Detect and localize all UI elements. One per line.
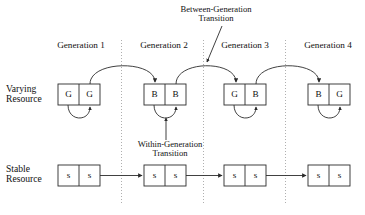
within-generation-arc-2 <box>154 105 176 118</box>
varying-box-1-right-letter: G <box>86 89 93 99</box>
between-generation-transition-line2: Transition <box>180 14 251 23</box>
generation-label-3: Generation 3 <box>221 41 269 51</box>
stable-box-4-right-letter: s <box>338 170 342 180</box>
stable-box-1-right-letter: s <box>88 170 92 180</box>
varying-box-1-left-letter: G <box>65 89 72 99</box>
stable-resource-label: Stable Resource <box>6 164 42 185</box>
varying-box-3-left-letter: G <box>231 89 238 99</box>
between-generation-leader <box>207 26 222 62</box>
varying-resource-boxes <box>58 84 350 105</box>
within-generation-arc-1 <box>68 105 90 118</box>
varying-box-2-left-letter: B <box>151 89 157 99</box>
varying-box-2-right-letter: B <box>172 89 178 99</box>
stable-box-3-right-letter: s <box>254 170 258 180</box>
generation-label-1: Generation 1 <box>57 41 105 51</box>
stable-box-2-left-letter: s <box>153 170 157 180</box>
stable-box-3-left-letter: s <box>233 170 237 180</box>
between-generation-arc-2 <box>176 66 236 84</box>
varying-box-4-right-letter: G <box>336 89 343 99</box>
between-generation-arc-3 <box>256 66 319 84</box>
varying-resource-label: Varying Resource <box>6 84 42 105</box>
generation-transition-diagram: Generation 1 Generation 2 Generation 3 G… <box>0 0 365 215</box>
varying-resource-label-line2: Resource <box>6 94 42 104</box>
diagram-canvas <box>0 0 365 215</box>
generation-label-2: Generation 2 <box>140 41 188 51</box>
between-generation-arc-1 <box>90 66 155 84</box>
within-generation-transition-label: Within-Generation Transition <box>138 140 203 159</box>
generation-label-4: Generation 4 <box>304 41 352 51</box>
stable-box-1-left-letter: s <box>67 170 71 180</box>
within-generation-transition-line2: Transition <box>138 149 203 158</box>
between-generation-transition-label: Between-Generation Transition <box>180 5 251 24</box>
within-generation-arc-3 <box>234 105 256 118</box>
stable-box-2-right-letter: s <box>174 170 178 180</box>
varying-box-3-right-letter: B <box>252 89 258 99</box>
varying-box-4-left-letter: B <box>315 89 321 99</box>
within-generation-arcs <box>68 105 340 118</box>
between-generation-arcs <box>90 66 319 84</box>
stable-resource-label-line2: Resource <box>6 174 42 184</box>
within-generation-arc-4 <box>318 105 340 118</box>
stable-box-4-left-letter: s <box>317 170 321 180</box>
